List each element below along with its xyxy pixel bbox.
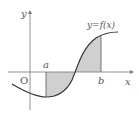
a-label: a xyxy=(43,59,49,70)
b-label: b xyxy=(98,75,104,86)
x-axis-arrow-icon xyxy=(130,70,134,74)
y-axis-arrow-icon xyxy=(28,10,32,14)
y-axis-label: y xyxy=(20,8,27,19)
curve-label: y=f(x) xyxy=(86,20,116,30)
origin-label: O xyxy=(20,75,28,86)
x-axis-label: x xyxy=(125,76,131,87)
shaded-region-above xyxy=(75,36,101,72)
integral-diagram: y x O a b y=f(x) xyxy=(0,0,139,113)
